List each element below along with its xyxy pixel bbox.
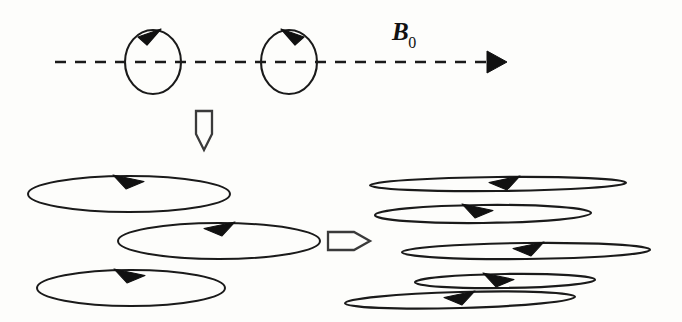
field-label-base: B: [392, 18, 409, 45]
figure-root: B0: [0, 0, 682, 322]
ellipse-arrowhead-icon: [113, 175, 144, 189]
ellipse-arrowhead-icon: [204, 222, 235, 236]
field-label-subscript: 0: [408, 34, 416, 51]
precession-ellipse: [370, 176, 626, 193]
circle-1-arrowhead-icon: [138, 29, 161, 45]
diagram-canvas: [0, 0, 682, 322]
precession-circle-2: [261, 29, 317, 94]
precession-ellipse: [375, 204, 591, 224]
ellipse-arrowhead-icon: [114, 269, 145, 283]
right-ellipse-group: [345, 176, 650, 312]
right-transition-arrow-icon: [328, 232, 370, 250]
precession-circle-1: [125, 29, 181, 94]
field-axis-group: [55, 51, 507, 73]
circle-2-arrowhead-icon: [281, 29, 304, 45]
precession-ellipse: [415, 273, 595, 290]
left-ellipse-group: [28, 175, 320, 306]
field-label-b0: B0: [392, 18, 417, 48]
precession-ellipse: [28, 175, 230, 212]
precession-ellipse: [118, 222, 320, 259]
precession-ellipse: [37, 269, 225, 306]
precession-ellipse: [345, 289, 575, 311]
down-transition-arrow-icon: [196, 111, 212, 150]
precession-ellipse: [402, 242, 650, 261]
field-axis-arrowhead-icon: [487, 51, 507, 73]
